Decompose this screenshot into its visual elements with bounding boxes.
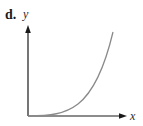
y-axis-arrow-icon — [25, 25, 31, 33]
x-axis-arrow-icon — [119, 113, 127, 119]
graph-canvas: y x — [0, 0, 143, 126]
y-axis-label: y — [22, 7, 29, 21]
x-axis-label: x — [129, 109, 136, 123]
curve — [28, 32, 113, 116]
graph-figure: d. y x — [0, 0, 143, 126]
